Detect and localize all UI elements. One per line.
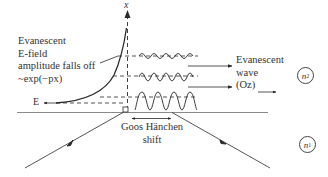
right-annotation: Evanescent wave (Oz) [236, 54, 284, 92]
medium-n1-label: n1 [299, 136, 316, 153]
shift-annotation: Goos Hänchen shift [112, 121, 192, 146]
wave-medium [139, 73, 193, 81]
left-annotation-line-2: E-field [18, 48, 95, 61]
right-annotation-line-2: wave [236, 67, 284, 80]
incident-ray-arrowhead-icon [67, 140, 73, 146]
evanescent-wave-diagram: x Evanescent E-field amplitude falls off… [0, 0, 328, 177]
e-field-label: E [33, 96, 39, 109]
left-annotation: Evanescent E-field amplitude falls off ~… [18, 35, 95, 85]
right-annotation-line-1: Evanescent [236, 54, 284, 67]
incident-ray [25, 113, 123, 169]
wave-large [135, 92, 197, 110]
origin-marker [123, 107, 128, 112]
reflected-ray-arrowhead-icon [220, 140, 226, 144]
x-axis-label: x [124, 0, 128, 12]
shift-label-line-1: Goos Hänchen [112, 121, 192, 134]
medium-n2-subscript: 2 [306, 73, 309, 79]
left-annotation-line-3: amplitude falls off [18, 60, 95, 73]
shift-label-line-2: shift [112, 134, 192, 147]
left-annotation-line-1: Evanescent [18, 35, 95, 48]
medium-n2-label: n2 [297, 67, 314, 84]
right-annotation-line-3: (Oz) [236, 79, 284, 92]
leader-line [100, 56, 118, 63]
medium-n1-subscript: 1 [308, 142, 311, 148]
left-annotation-line-4: ~exp(−px) [18, 73, 95, 86]
